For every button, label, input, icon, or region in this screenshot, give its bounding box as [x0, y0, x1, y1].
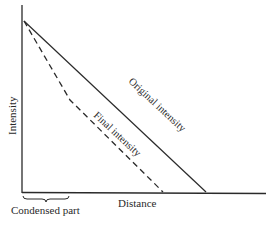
intensity-diagram: Intensity Original intensity Final inten…: [0, 0, 277, 226]
y-axis-label: Intensity: [6, 96, 18, 135]
condensed-part-label: Condensed part: [11, 204, 80, 216]
x-axis-label: Distance: [118, 197, 157, 209]
condensed-part-brace: [23, 196, 69, 202]
final-intensity-line: [24, 21, 163, 192]
original-intensity-line: [24, 21, 206, 192]
final-intensity-label: Final intensity: [92, 109, 144, 159]
x-axis: [22, 193, 266, 194]
